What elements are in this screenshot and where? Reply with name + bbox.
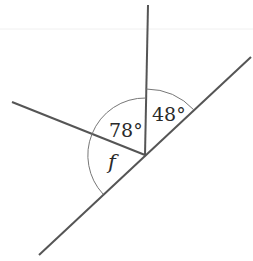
angle-label-78: 78°	[109, 119, 143, 141]
arc-f	[88, 134, 103, 194]
vertical-ray	[145, 5, 148, 155]
angle-diagram: 48° 78° f	[0, 0, 253, 261]
straight-line	[39, 57, 251, 255]
angle-label-f: f	[106, 150, 119, 174]
angle-label-48: 48°	[152, 103, 186, 125]
